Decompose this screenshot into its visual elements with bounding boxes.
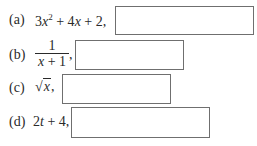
expr-part: + 4 — [53, 14, 75, 29]
expr-part: + 4, — [44, 114, 69, 129]
radicand: x — [43, 78, 51, 94]
sqrt-symbol: √ — [35, 79, 43, 94]
answer-input-c[interactable] — [62, 74, 171, 104]
fraction: 1 x + 1 — [35, 39, 69, 68]
item-label: (b) — [9, 47, 25, 63]
denominator: x + 1 — [35, 55, 69, 68]
square-root: √x, — [35, 79, 54, 95]
answer-input-d[interactable] — [71, 107, 210, 138]
expression: 3x2 + 4x + 2, — [35, 12, 106, 30]
item-label: (c) — [9, 80, 25, 96]
expr-part: + 2, — [81, 14, 106, 29]
item-label: (a) — [9, 12, 25, 28]
item-label: (d) — [9, 114, 25, 130]
expression: 2t + 4, — [33, 114, 69, 130]
answer-input-a[interactable] — [115, 6, 254, 35]
expr-part: 2 — [33, 114, 40, 129]
numerator: 1 — [35, 39, 69, 52]
answer-input-b[interactable] — [75, 40, 184, 70]
trailing-comma: , — [51, 79, 55, 94]
expr-part: 3 — [35, 14, 42, 29]
trailing-comma: , — [69, 47, 73, 63]
